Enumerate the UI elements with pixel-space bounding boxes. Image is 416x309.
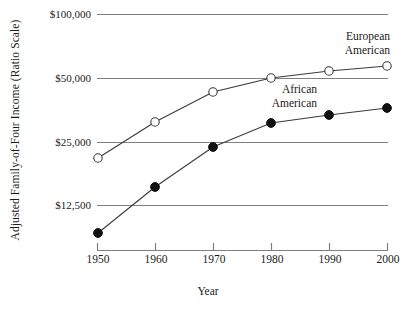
y-tick-label-50000: $50,000 (27, 72, 91, 84)
x-axis (97, 243, 388, 251)
data-point-european-american-1960 (151, 118, 159, 126)
series-annotation-african-american-line2: American (232, 96, 317, 110)
series-annotation-european-american-line2: American (305, 43, 390, 57)
series-annotation-european-american: European American (305, 29, 390, 57)
series-african-american-line (98, 108, 387, 233)
y-tick-label-25000: $25,000 (27, 136, 91, 148)
data-point-european-american-1950 (94, 154, 102, 162)
series-european-american (94, 62, 391, 162)
series-annotation-african-american: African American (232, 82, 317, 110)
series-annotation-european-american-line1: European (305, 29, 390, 43)
data-point-european-american-1980 (267, 74, 275, 82)
x-tick-label-1950: 1950 (72, 253, 124, 265)
data-point-african-american-2000 (383, 104, 392, 113)
y-tick-label-100000: $100,000 (27, 8, 91, 20)
series-african-american (94, 104, 392, 238)
x-tick-label-1970: 1970 (188, 253, 240, 265)
series-annotation-african-american-line1: African (232, 82, 317, 96)
data-point-african-american-1950 (94, 229, 103, 238)
data-point-african-american-1970 (209, 143, 218, 152)
data-point-african-american-1980 (267, 119, 276, 128)
x-tick-label-1990: 1990 (304, 253, 356, 265)
x-tick-label-1980: 1980 (246, 253, 298, 265)
data-point-african-american-1960 (151, 183, 160, 192)
y-axis-title-container: Adjusted Family-of-Four Income (Ratio Sc… (0, 0, 30, 260)
x-axis-title: Year (0, 285, 416, 297)
data-point-european-american-1970 (209, 88, 217, 96)
chart-figure: Adjusted Family-of-Four Income (Ratio Sc… (0, 0, 416, 309)
y-axis-title: Adjusted Family-of-Four Income (Ratio Sc… (9, 20, 21, 241)
series-european-american-line (98, 66, 387, 158)
y-tick-label-12500: $12,500 (27, 199, 91, 211)
x-tick-label-1960: 1960 (130, 253, 182, 265)
data-point-african-american-1990 (325, 111, 334, 120)
x-tick-label-2000: 2000 (362, 253, 414, 265)
data-point-european-american-1990 (325, 67, 333, 75)
data-point-european-american-2000 (383, 62, 391, 70)
